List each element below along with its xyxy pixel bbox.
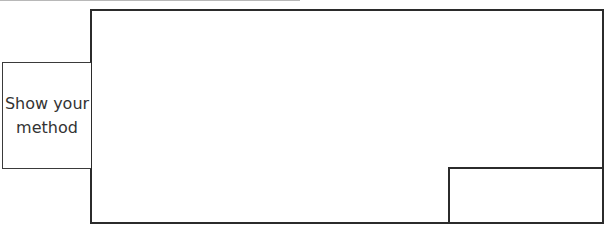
show-method-label: Show your method (5, 92, 89, 140)
show-method-label-line2: method (5, 116, 89, 140)
show-method-label-line1: Show your (5, 92, 89, 116)
cut-off-rule (0, 0, 300, 1)
final-answer-box[interactable] (448, 167, 602, 222)
show-method-label-box: Show your method (2, 62, 91, 169)
